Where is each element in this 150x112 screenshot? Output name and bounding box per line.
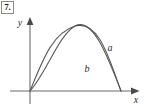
curve-a-label: a xyxy=(108,42,113,53)
y-axis-arrow-icon xyxy=(27,17,34,25)
curve-b-label: b xyxy=(85,63,90,74)
curve-b xyxy=(30,25,121,91)
x-axis-label: x xyxy=(133,94,139,105)
y-axis-label: y xyxy=(17,17,23,28)
figure-root: 7. y x a b xyxy=(0,0,150,112)
plot-canvas: y x a b xyxy=(0,0,150,112)
